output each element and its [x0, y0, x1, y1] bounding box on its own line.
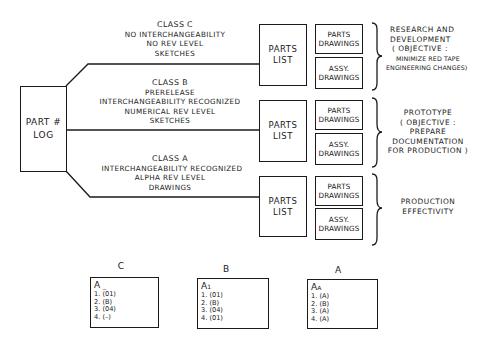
brace-rd — [372, 23, 382, 90]
phase-production: PRODUCTION EFFECTIVITY — [384, 197, 472, 216]
assy-drawings-box: ASSY.DRAWINGS — [315, 57, 363, 89]
drawings-label: DRAWINGS — [318, 191, 359, 200]
rev-example-b: A1 1. (01) 2. (B) 3. (04) 4. (01) — [197, 278, 269, 329]
rev-example-label-a: A — [331, 265, 345, 275]
phase-line: ENGINEERING CHANGES) — [384, 63, 486, 73]
drawings-label: DRAWINGS — [318, 224, 359, 233]
class-a-line: ALPHA REV LEVEL — [80, 173, 260, 183]
parts-list-label: LIST — [269, 207, 298, 218]
class-c-line: SKETCHES — [90, 49, 260, 59]
class-b-line: SKETCHES — [80, 116, 260, 126]
class-a-line: DRAWINGS — [80, 183, 260, 193]
parts-list-label: PARTS — [269, 120, 298, 131]
rev-row: 4. (A) — [311, 316, 374, 324]
parts-list-label: LIST — [269, 55, 298, 66]
class-a-line: INTERCHANGEABILITY RECOGNIZED — [84, 164, 260, 174]
phase-line: DOCUMENTATION — [380, 137, 476, 147]
part-log-line2: LOG — [26, 129, 62, 142]
drawings-label: ASSY. — [318, 140, 359, 149]
phase-line: ( OBJECTIVE : — [384, 44, 486, 54]
drawings-label: PARTS — [318, 30, 359, 39]
rev-example-a: AA 1. (A) 2. (B) 3. (A) 4. (A) — [307, 279, 378, 329]
rev-row: 4. (–) — [94, 314, 155, 322]
part-log-box: PART # LOG — [20, 86, 67, 172]
rev-example-label-c: C — [114, 261, 128, 271]
drawings-label: DRAWINGS — [318, 115, 359, 124]
drawings-label: DRAWINGS — [318, 149, 359, 158]
phase-line: RESEARCH AND — [384, 25, 486, 35]
phase-line: FOR PRODUCTION ) — [380, 146, 476, 156]
drawings-label: ASSY. — [318, 64, 359, 73]
class-b-title: CLASS B — [80, 78, 260, 88]
class-c-title: CLASS C — [90, 20, 260, 30]
phase-line: PRODUCTION — [384, 197, 472, 207]
phase-line: EFFECTIVITY — [384, 207, 472, 217]
drawings-label: PARTS — [318, 182, 359, 191]
parts-list-box: PARTSLIST — [259, 176, 307, 237]
phase-line: MINIMIZE RED TAPE — [384, 54, 486, 64]
assy-drawings-box: ASSY.DRAWINGS — [315, 208, 363, 240]
rev-row: 4. (01) — [201, 315, 265, 323]
parts-list-label: PARTS — [269, 196, 298, 207]
class-b-line: INTERCHANGEABILITY RECOGNIZED — [80, 97, 260, 107]
class-a-description: CLASS A INTERCHANGEABILITY RECOGNIZED AL… — [80, 154, 260, 192]
phase-line: ( OBJECTIVE : — [380, 118, 476, 128]
drawings-label: ASSY. — [318, 215, 359, 224]
phase-line: PREPARE — [380, 127, 476, 137]
brace-production — [372, 174, 382, 245]
phase-research-development: RESEARCH AND DEVELOPMENT ( OBJECTIVE : M… — [384, 25, 486, 73]
assy-drawings-box: ASSY.DRAWINGS — [315, 133, 363, 165]
phase-prototype: PROTOTYPE ( OBJECTIVE : PREPARE DOCUMENT… — [380, 108, 476, 156]
class-c-description: CLASS C NO INTERCHANGEABILITY NO REV LEV… — [90, 20, 260, 58]
part-log-line1: PART # — [26, 116, 62, 129]
class-b-description: CLASS B PRERELEASE INTERCHANGEABILITY RE… — [80, 78, 260, 126]
rev-example-c: A _ 1. (01) 2. (B) 3. (04) 4. (–) — [90, 277, 159, 328]
class-c-line: NO REV LEVEL — [90, 39, 260, 49]
drawings-label: PARTS — [318, 106, 359, 115]
drawings-label: DRAWINGS — [318, 73, 359, 82]
class-c-line: NO INTERCHANGEABILITY — [90, 30, 260, 40]
rev-example-label-b: B — [219, 264, 233, 274]
class-a-title: CLASS A — [80, 154, 260, 164]
parts-list-box: PARTSLIST — [259, 100, 307, 162]
phase-line: DEVELOPMENT — [384, 35, 486, 45]
parts-list-label: LIST — [269, 131, 298, 142]
parts-drawings-box: PARTSDRAWINGS — [315, 100, 363, 130]
parts-drawings-box: PARTSDRAWINGS — [315, 176, 363, 206]
class-b-line: PRERELEASE — [80, 88, 260, 98]
class-b-line: NUMERICAL REV LEVEL — [80, 107, 260, 117]
parts-list-box: PARTSLIST — [259, 24, 307, 86]
parts-drawings-box: PARTSDRAWINGS — [315, 24, 363, 54]
phase-line: PROTOTYPE — [380, 108, 476, 118]
parts-list-label: PARTS — [269, 44, 298, 55]
drawings-label: DRAWINGS — [318, 39, 359, 48]
